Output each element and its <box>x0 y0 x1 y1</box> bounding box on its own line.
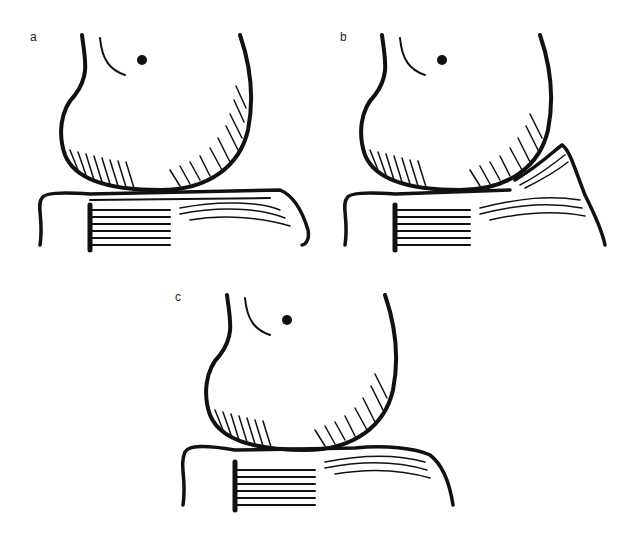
knee-joint-illustration-b <box>340 30 640 255</box>
figure-panel-a: a <box>30 30 320 255</box>
knee-joint-illustration-a <box>30 30 320 255</box>
figure-panel-b: b <box>340 30 640 255</box>
figure-panel-c: c <box>175 290 475 515</box>
knee-joint-illustration-c <box>175 290 475 515</box>
